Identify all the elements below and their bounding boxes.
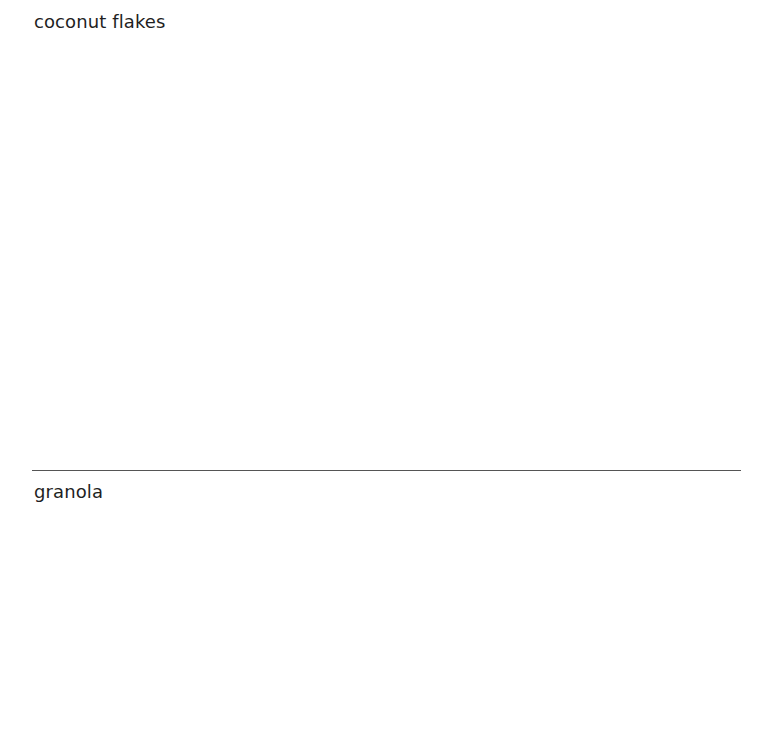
section-divider	[32, 470, 741, 471]
section-title-granola: granola	[34, 481, 103, 503]
section-title-coconut-flakes: coconut flakes	[34, 11, 165, 33]
